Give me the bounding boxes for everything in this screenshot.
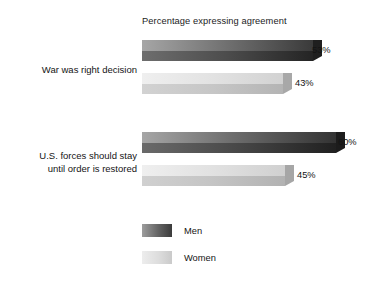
legend-swatch-women-icon (142, 251, 172, 264)
bar-men-war-was-right-decision (142, 40, 322, 63)
bar-shape-women-45 (142, 165, 294, 188)
legend-label-men: Men (184, 226, 202, 236)
legend-item-men: Men (142, 222, 216, 239)
category-label-us-forces-should-stay: U.S. forces should stay until order is r… (39, 150, 137, 175)
legend-label-women: Women (184, 253, 216, 263)
chart-title: Percentage expressing agreement (142, 16, 287, 26)
bar-shape-men-60 (142, 132, 345, 155)
bar-chart: Percentage expressing agreement War was … (0, 0, 377, 282)
value-label-men-war-was-right-decision: 53% (312, 45, 331, 55)
bar-women-us-forces-should-stay (142, 165, 294, 188)
value-label-women-war-was-right-decision: 43% (295, 78, 314, 88)
category-label-war-was-right-decision: War was right decision (42, 64, 137, 77)
value-label-women-us-forces-should-stay: 45% (297, 170, 316, 180)
bar-women-war-was-right-decision (142, 73, 292, 96)
bar-shape-women-43 (142, 73, 292, 96)
legend-item-women: Women (142, 249, 216, 266)
value-label-men-us-forces-should-stay: 60% (338, 137, 357, 147)
bar-men-us-forces-should-stay (142, 132, 345, 155)
bar-shape-men-53 (142, 40, 322, 63)
legend-swatch-men-icon (142, 224, 172, 237)
chart-legend: Men Women (142, 222, 216, 276)
